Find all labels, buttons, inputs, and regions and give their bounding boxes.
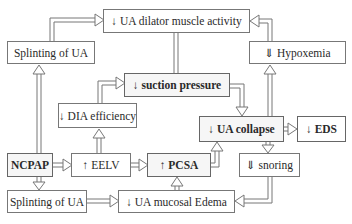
arrow-eelv-to-dia-efficiency bbox=[93, 129, 105, 153]
arrow-suction-to-ua-dilator bbox=[174, 33, 178, 73]
arrow-ua-collapse-to-snoring bbox=[262, 142, 274, 153]
node-dia-efficiency: ↓ DIA efficiency bbox=[58, 103, 137, 128]
node-label: Splinting of UA bbox=[14, 47, 88, 59]
node-splinting-of-ua-bottom: Splinting of UA bbox=[7, 190, 87, 213]
node-label: ↑ PCSA bbox=[160, 159, 199, 171]
arrow-splinting-bottom-to-mucosal-edema bbox=[87, 195, 119, 207]
node-ua-dilator-muscle-activity: ↓ UA dilator muscle activity bbox=[103, 9, 250, 33]
node-label: ⇓ Hypoxemia bbox=[264, 46, 330, 60]
arrow-splinting-to-ua-dilator bbox=[50, 14, 104, 41]
node-label: ↑ EELV bbox=[83, 159, 120, 171]
arrow-eelv-to-pcsa bbox=[131, 159, 148, 171]
node-hypoxemia: ⇓ Hypoxemia bbox=[249, 41, 346, 64]
node-eelv: ↑ EELV bbox=[71, 153, 131, 177]
node-suction-pressure: ↓ suction pressure bbox=[124, 73, 230, 97]
arrow-hypoxemia-to-ua-dilator bbox=[250, 15, 272, 41]
node-ua-collapse: ↓ UA collapse bbox=[199, 116, 284, 142]
node-eds: ↓ EDS bbox=[297, 116, 346, 142]
node-label: ⇓ snoring bbox=[246, 158, 293, 172]
arrow-dia-to-suction bbox=[98, 77, 125, 103]
arrow-mucosal-edema-to-pcsa bbox=[171, 177, 183, 190]
node-splinting-of-ua-top: Splinting of UA bbox=[7, 41, 95, 64]
node-ua-mucosal-edema: ↓ UA mucosal Edema bbox=[118, 190, 235, 213]
arrow-ncpap-to-eelv bbox=[53, 159, 72, 171]
node-label: NCPAP bbox=[11, 159, 49, 171]
node-label: Splinting of UA bbox=[10, 196, 84, 208]
arrow-ncpap-to-splinting-top bbox=[33, 65, 45, 153]
node-pcsa: ↑ PCSA bbox=[147, 153, 211, 177]
arrow-suction-to-ua-collapse bbox=[230, 84, 248, 116]
arrow-ncpap-to-splinting-bottom bbox=[33, 177, 45, 190]
node-label: ↓ EDS bbox=[306, 123, 337, 135]
arrow-ua-collapse-to-hypoxemia bbox=[264, 65, 276, 116]
node-label: ↓ suction pressure bbox=[133, 79, 221, 91]
arrow-snoring-to-mucosal-edema bbox=[235, 177, 272, 207]
node-label: ↓ UA mucosal Edema bbox=[126, 196, 227, 208]
node-ncpap: NCPAP bbox=[7, 153, 53, 177]
node-snoring: ⇓ snoring bbox=[239, 153, 300, 177]
arrow-ua-collapse-to-eds bbox=[284, 123, 297, 135]
arrow-pcsa-to-ua-collapse bbox=[211, 142, 223, 167]
node-label: ↓ UA collapse bbox=[208, 123, 274, 135]
node-label: ↓ UA dilator muscle activity bbox=[111, 15, 241, 27]
node-label: ↓ DIA efficiency bbox=[59, 110, 136, 122]
